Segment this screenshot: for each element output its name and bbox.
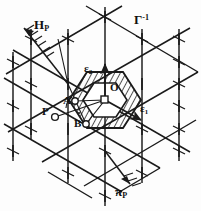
- point-b-marker: [83, 121, 89, 127]
- label-gamma-inverse: Γ-1: [134, 13, 149, 26]
- point-a-marker: [72, 98, 78, 104]
- label-point-b: B: [74, 118, 81, 129]
- label-origin: O: [110, 82, 119, 93]
- label-h-p: HP: [34, 18, 49, 33]
- label-epsilon-1: ε1: [140, 103, 148, 116]
- label-point-a: A: [63, 95, 71, 106]
- label-pi-p: πP: [115, 185, 127, 200]
- label-point-p: P: [42, 106, 49, 117]
- label-epsilon-2: ε2: [84, 63, 92, 76]
- origin-marker: [101, 96, 108, 103]
- point-p-marker: [52, 114, 59, 121]
- lattice-diagram: [0, 0, 201, 211]
- figure-canvas: HP Γ-1 ε2 ε1 O A B P πP: [0, 0, 201, 211]
